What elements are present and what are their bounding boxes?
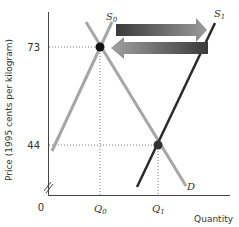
shift-right-arrow-icon (116, 18, 207, 42)
x-tick-q1: Q1 (152, 203, 165, 216)
supply-curve-s0 (52, 22, 112, 151)
shift-left-arrow-icon (111, 37, 208, 59)
supply-demand-chart: Price (1995 cents per kilogram) 73 44 0 … (0, 0, 239, 227)
y-tick-73: 73 (27, 42, 40, 53)
x-tick-q0: Q0 (94, 203, 107, 216)
equilibrium-point-initial (96, 43, 105, 52)
origin-label: 0 (38, 202, 44, 213)
equilibrium-point-new (154, 141, 163, 150)
d-label: D (186, 181, 195, 192)
y-axis-label: Price (1995 cents per kilogram) (4, 39, 14, 181)
s0-label: S0 (106, 11, 118, 24)
s1-label: S1 (214, 8, 225, 21)
y-tick-44: 44 (27, 140, 40, 151)
x-axis-label: Quantity (194, 214, 234, 224)
